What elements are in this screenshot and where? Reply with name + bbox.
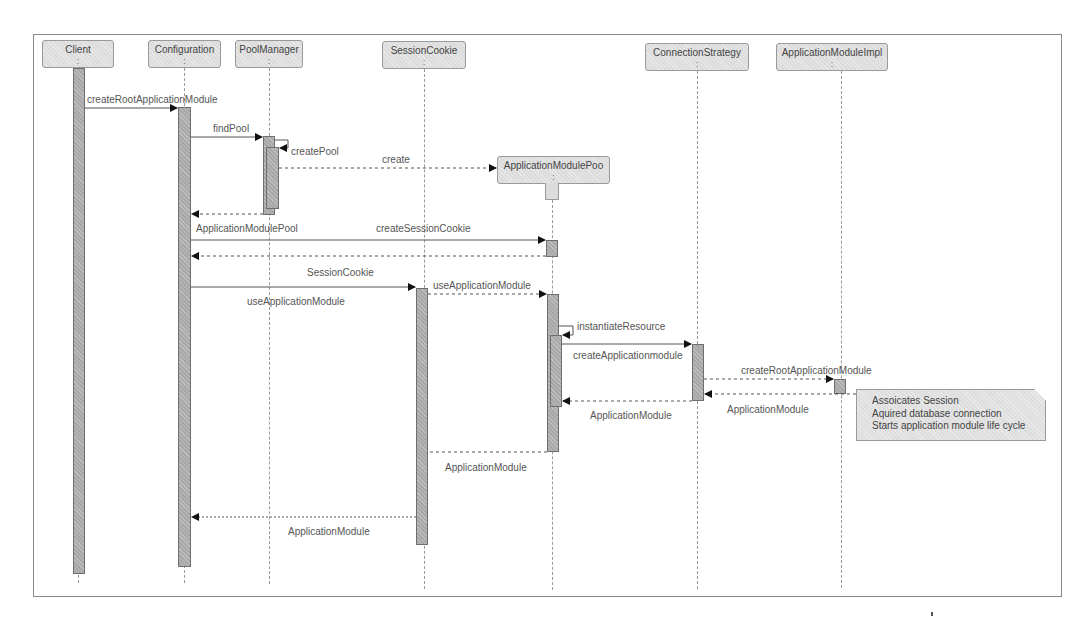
message-label: useApplicationModule <box>247 296 345 307</box>
message-label: ApplicationModule <box>445 462 527 473</box>
message-label: createSessionCookie <box>376 223 471 234</box>
message-label: createRootApplicationModule <box>741 365 872 376</box>
note-box: Assoicates Session Aquired database conn… <box>856 389 1046 441</box>
stray-mark <box>931 612 933 616</box>
note-line: Aquired database connection <box>872 408 1045 421</box>
message-label: ApplicationModule <box>288 526 370 537</box>
message-label: findPool <box>213 123 249 134</box>
message-label: SessionCookie <box>307 267 374 278</box>
message-label: ApplicationModulePool <box>196 223 298 234</box>
note-line: Starts application module life cycle <box>872 420 1045 433</box>
message-label: create <box>382 154 410 165</box>
message-label: createRootApplicationModule <box>87 94 218 105</box>
message-label: useApplicationModule <box>433 280 531 291</box>
note-line: Assoicates Session <box>872 395 1045 408</box>
message-label: ApplicationModule <box>727 404 809 415</box>
message-label: ApplicationModule <box>590 410 672 421</box>
message-label: createPool <box>291 146 339 157</box>
message-label: createApplicationmodule <box>573 350 683 361</box>
message-label: instantiateResource <box>577 321 665 332</box>
